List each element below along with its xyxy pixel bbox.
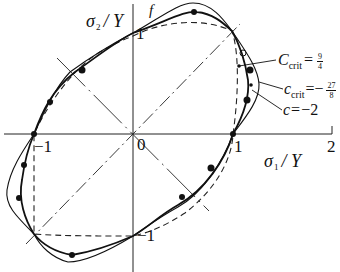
fraction-denominator: 8 (329, 91, 333, 100)
data-point (79, 67, 86, 74)
tick-x-neg1: −1 (34, 138, 52, 155)
data-point (69, 252, 75, 258)
leader-c-minus-2 (252, 90, 282, 110)
data-point (249, 83, 253, 87)
label-eq: =− (305, 80, 323, 97)
curve-c-crit-9-4 (21, 12, 248, 255)
leader-c-crit-27-8 (259, 82, 283, 89)
y-axis-subscript: 2 (96, 22, 101, 32)
label-sub: crit (291, 89, 304, 100)
label-prefix: C (278, 51, 289, 68)
data-point (21, 162, 27, 168)
tick-x-2: 2 (327, 138, 336, 155)
fraction: 94 (317, 52, 323, 71)
data-point (16, 195, 22, 201)
x-axis-subscript: 1 (274, 162, 279, 172)
fraction-denominator: 4 (318, 62, 322, 71)
label-prefix: c (283, 101, 290, 118)
label-sub: crit (289, 60, 302, 71)
data-point (208, 165, 215, 172)
fraction-numerator: 27 (326, 81, 336, 91)
label-c-crit-9-4: Ccrit=94 (278, 52, 323, 71)
yield-locus-plot (0, 0, 340, 272)
label-eq: = (304, 51, 313, 68)
data-point (179, 194, 185, 200)
label-eq: = (291, 101, 300, 118)
y-axis-unit: Y (113, 11, 123, 31)
x-axis-label: σ1/ Y (264, 152, 301, 172)
tick-y-1: 1 (136, 25, 145, 42)
label-c-minus-2: c=−2 (283, 102, 318, 118)
label-c-crit-27-8: ccrit=−278 (284, 81, 336, 100)
fraction-numerator: 9 (317, 52, 323, 62)
axes (4, 4, 332, 272)
f-label: f (149, 3, 153, 18)
tick-y-neg1: −1 (137, 227, 155, 244)
x-axis-unit: Y (291, 151, 301, 171)
tick-x-1: 1 (234, 138, 243, 155)
y-axis-symbol: σ (86, 11, 95, 31)
data-point (244, 97, 251, 104)
data-point (47, 99, 53, 105)
data-point (247, 67, 254, 74)
y-axis-label: σ2/ Y (86, 12, 123, 32)
label-value: −2 (301, 101, 318, 118)
x-axis-symbol: σ (264, 151, 273, 171)
fraction: 278 (326, 81, 336, 100)
data-point (191, 9, 197, 15)
tick-x-0: 0 (137, 136, 146, 153)
